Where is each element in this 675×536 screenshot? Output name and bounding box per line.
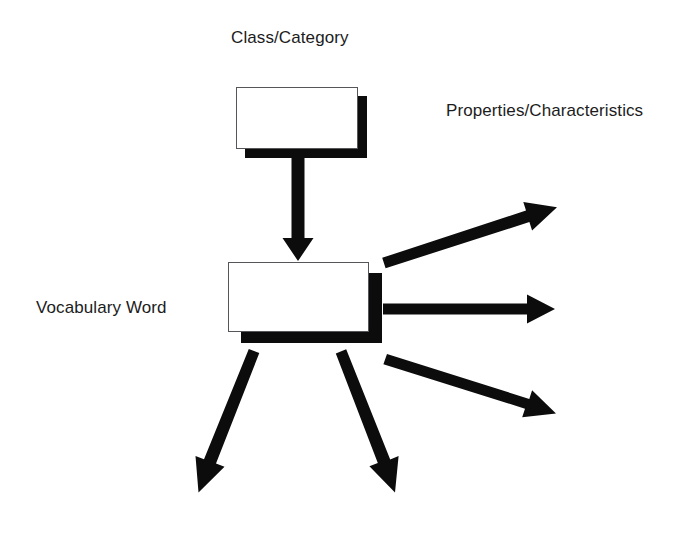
class-category-label: Class/Category — [231, 28, 349, 48]
arrow-class-to-word — [283, 157, 314, 261]
arrow-word-to-property-3 — [383, 354, 556, 417]
arrow-word-to-property-1 — [382, 202, 557, 268]
properties-characteristics-label: Properties/Characteristics — [446, 101, 643, 121]
class-category-box[interactable] — [236, 87, 358, 149]
vocabulary-word-box[interactable] — [228, 262, 369, 332]
arrow-word-to-property-4 — [196, 349, 260, 493]
vocabulary-word-label: Vocabulary Word — [36, 298, 167, 318]
concept-map-diagram: Class/Category Properties/Characteristic… — [0, 0, 675, 536]
arrow-word-to-property-5 — [336, 349, 399, 492]
arrow-word-to-property-2 — [383, 295, 555, 324]
